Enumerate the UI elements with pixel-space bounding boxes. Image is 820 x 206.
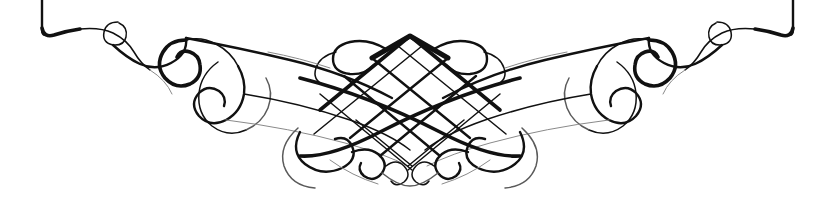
hairline-accent-group [150, 52, 685, 94]
lattice-diag-a4 [320, 94, 412, 170]
bottom-hair-sweep-left [330, 160, 378, 184]
flourish-artwork: Calligraphic Flourish Ornament Symmetric… [0, 0, 820, 206]
right-outer-scroll-spiral [635, 40, 676, 86]
apex-shoulder-group [315, 41, 505, 85]
right-corner-hook [755, 28, 793, 36]
bottom-curl-center-link [382, 173, 438, 186]
bottom-curl-right-inner [412, 162, 434, 185]
lattice-diag-b4 [408, 94, 500, 170]
ornament-canvas: Calligraphic Flourish Ornament Symmetric… [0, 0, 820, 206]
right-inner-scroll-group [564, 62, 641, 133]
left-apex-loop [333, 41, 386, 74]
left-outer-scroll-spiral [159, 40, 200, 86]
right-inner-scroll [591, 66, 641, 123]
right-upper-wisp [505, 52, 567, 68]
left-corner-hook [42, 28, 80, 36]
left-inner-scroll-group [194, 62, 271, 133]
corner-bracket-group [42, 0, 793, 36]
bottom-curl-left-inner [386, 162, 408, 185]
right-apex-loop [434, 41, 487, 74]
bottom-hair-sweep-right [442, 160, 490, 184]
center-spine-group [186, 38, 649, 166]
bottom-curl-right-outer [435, 149, 468, 178]
left-inner-scroll [194, 66, 244, 123]
left-inner-scroll-hair [246, 78, 271, 130]
right-inner-scroll-hair [564, 78, 589, 130]
